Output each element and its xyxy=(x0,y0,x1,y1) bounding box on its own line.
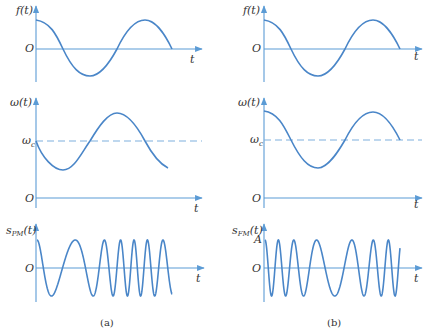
caption-a: (a) xyxy=(100,317,114,328)
xlabel: t xyxy=(190,53,195,66)
origin-label: O xyxy=(252,42,261,55)
panel-a-pm-signal-plot: sPM(t) O t xyxy=(6,224,204,302)
panel-b: f(t) O t ω(t) ωc O t sFM(t) A O t (b) xyxy=(232,4,422,328)
reference-label: ωc xyxy=(22,134,35,149)
pm-fm-diagram: f(t) O t ω(t) ωc O t sPM(t) O t (a) xyxy=(0,0,430,333)
panel-a-message-plot: f(t) O t xyxy=(15,4,202,82)
xlabel: t xyxy=(414,272,419,285)
panel-a: f(t) O t ω(t) ωc O t sPM(t) O t (a) xyxy=(6,4,204,328)
origin-label: O xyxy=(25,42,34,55)
origin-label: O xyxy=(252,262,261,275)
ylabel: sPM(t) xyxy=(6,224,37,238)
ylabel: ω(t) xyxy=(10,96,32,109)
message-curve xyxy=(264,20,400,76)
ylabel: f(t) xyxy=(242,4,260,17)
origin-label: O xyxy=(252,192,261,205)
xlabel: t xyxy=(196,272,201,285)
amplitude-label: A xyxy=(253,233,262,246)
origin-label: O xyxy=(25,192,34,205)
panel-b-message-plot: f(t) O t xyxy=(242,4,422,82)
panel-b-fm-signal-plot: sFM(t) A O t xyxy=(232,224,422,302)
ylabel: f(t) xyxy=(15,4,33,17)
panel-b-frequency-plot: ω(t) ωc O t xyxy=(238,96,422,211)
reference-label: ωc xyxy=(250,133,263,148)
xlabel: t xyxy=(414,50,419,63)
caption-b: (b) xyxy=(327,317,341,328)
ylabel: ω(t) xyxy=(238,96,260,109)
message-curve xyxy=(36,20,172,76)
origin-label: O xyxy=(25,262,34,275)
xlabel: t xyxy=(194,202,199,215)
panel-a-frequency-plot: ω(t) ωc O t xyxy=(10,96,202,215)
xlabel: t xyxy=(414,198,419,211)
